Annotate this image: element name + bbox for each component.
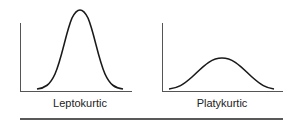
kurtosis-diagram — [0, 0, 297, 124]
platykurtic-curve — [169, 58, 274, 89]
leptokurtic-panel — [20, 10, 132, 92]
leptokurtic-label: Leptokurtic — [53, 97, 107, 109]
platykurtic-panel — [162, 23, 283, 92]
platykurtic-label: Platykurtic — [197, 97, 248, 109]
leptokurtic-curve — [37, 10, 123, 89]
